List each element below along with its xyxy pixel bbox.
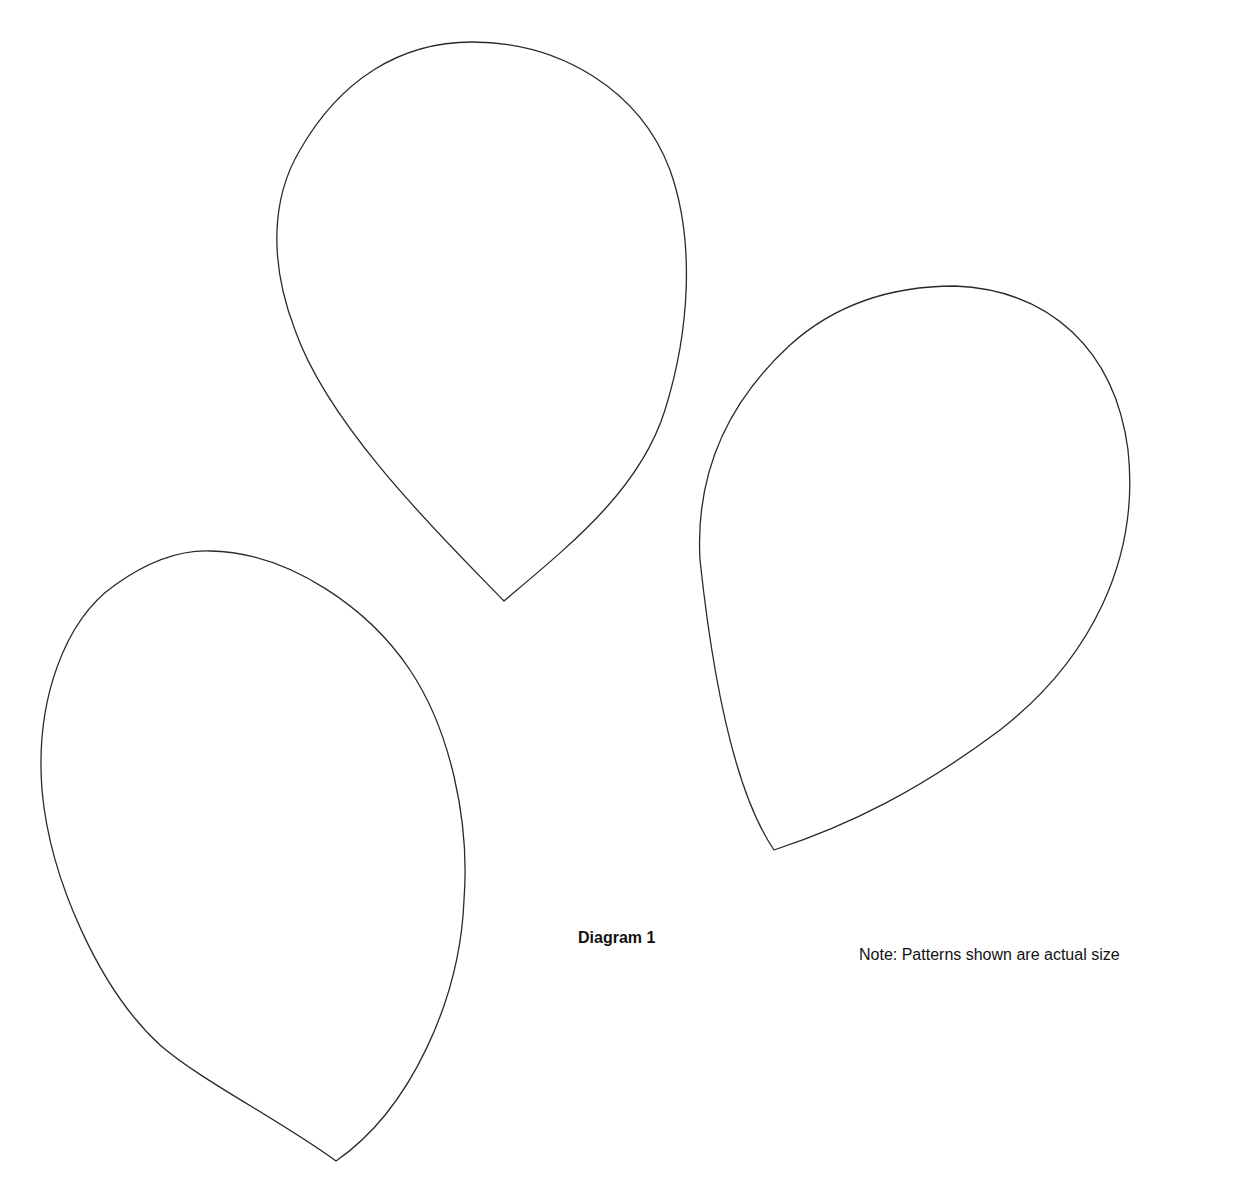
diagram-title: Diagram 1	[578, 929, 655, 947]
actual-size-note: Note: Patterns shown are actual size	[859, 946, 1120, 964]
petal-top	[277, 42, 687, 601]
petal-right	[700, 286, 1130, 850]
petal-bottom-left	[41, 551, 465, 1161]
pattern-canvas	[0, 0, 1253, 1202]
